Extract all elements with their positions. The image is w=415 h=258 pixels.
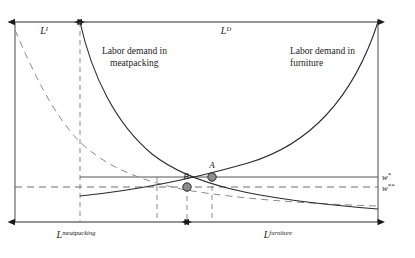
labor-market-diagram: A B LI LD Lmeatpacking Lfurniture Labor …: [0, 0, 415, 258]
point-a-label: A: [208, 160, 215, 170]
point-b-marker: [183, 183, 191, 191]
point-a-marker: [208, 173, 216, 181]
wage-labels: w* w**: [382, 171, 395, 193]
wage-label-w-double-star: w**: [382, 182, 395, 193]
curve-annotations: Labor demand in meatpacking Labor demand…: [102, 46, 357, 68]
diagram-canvas: A B LI LD Lmeatpacking Lfurniture Labor …: [0, 0, 415, 258]
point-b-label: B: [183, 171, 189, 181]
bottom-axis-left-label: Lmeatpacking: [56, 229, 97, 241]
furniture-curve-label: Labor demand in furniture: [290, 46, 357, 68]
top-axis-labels: LI LD: [39, 25, 231, 37]
top-axis-left-label: LI: [39, 25, 49, 37]
bottom-axis-labels: Lmeatpacking Lfurniture: [56, 229, 293, 241]
bottom-axis-right-label: Lfurniture: [263, 229, 293, 241]
wage-label-w-star: w*: [382, 171, 392, 182]
meatpacking-curve-label: Labor demand in meatpacking: [102, 46, 169, 68]
top-axis-right-label: LD: [220, 25, 232, 37]
